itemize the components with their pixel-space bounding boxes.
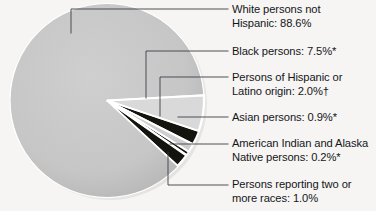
pie-chart-figure: White persons not Hispanic: 88.6% Black …: [0, 0, 376, 211]
callout-label-black-persons: Black persons: 7.5%*: [232, 45, 374, 59]
callout-label-hispanic-or-latino-origin: Persons of Hispanic or Latino origin: 2.…: [232, 71, 374, 98]
callout-label-american-indian-alaska-native: American Indian and Alaska Native person…: [232, 137, 376, 164]
callout-label-white-persons-not-hispanic: White persons not Hispanic: 88.6%: [232, 3, 374, 30]
callout-label-asian-persons: Asian persons: 0.9%*: [232, 111, 374, 125]
callout-label-two-or-more-races: Persons reporting two or more races: 1.0…: [232, 178, 374, 205]
